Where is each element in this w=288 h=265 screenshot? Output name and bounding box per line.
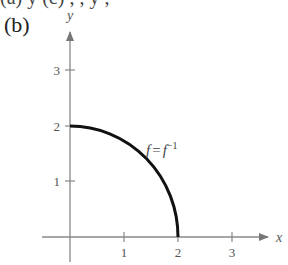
x-tick-3: 3 [229, 245, 236, 260]
y-tick-2: 2 [54, 119, 61, 134]
x-tick-1: 1 [121, 245, 128, 260]
y-tick-1: 1 [54, 174, 61, 189]
x-tick-2: 2 [175, 245, 182, 260]
graph: 1 2 3 1 2 3 x y f=f−1 [0, 0, 288, 265]
function-label: f=f−1 [146, 140, 177, 158]
x-axis-label: x [275, 230, 283, 245]
y-tick-3: 3 [54, 63, 61, 78]
y-axis-label: y [65, 8, 74, 23]
